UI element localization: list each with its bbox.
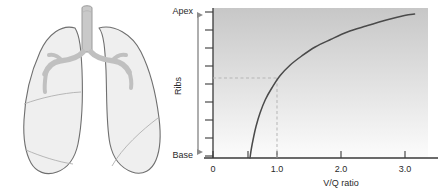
x-tick-label-2: 2.0 — [335, 164, 348, 174]
plot-area-background — [213, 8, 428, 158]
vq-chart-panel: Apex Base Ribs 0 1.0 2.0 3.0 V/Q ratio — [160, 0, 441, 190]
bronchus-right-branch-lower — [129, 71, 131, 88]
lung-illustration-panel — [0, 0, 180, 190]
x-tick-label-3: 3.0 — [399, 164, 412, 174]
ribs-label: Ribs — [173, 77, 183, 96]
x-axis-title: V/Q ratio — [323, 178, 359, 188]
lungs-diagram — [0, 0, 180, 190]
lung-right-lobe-shape — [99, 27, 160, 173]
base-label: Base — [172, 150, 193, 160]
x-tick-label-0: 0 — [210, 164, 215, 174]
vq-ratio-chart: Apex Base Ribs 0 1.0 2.0 3.0 V/Q ratio — [160, 0, 441, 190]
trachea-shape — [82, 6, 92, 52]
x-tick-label-1: 1.0 — [271, 164, 284, 174]
apex-label: Apex — [172, 6, 193, 16]
figure-root: Apex Base Ribs 0 1.0 2.0 3.0 V/Q ratio — [0, 0, 441, 190]
bronchus-left-branch-lower — [45, 73, 46, 92]
lung-left-lobe-shape — [24, 27, 83, 173]
y-axis-ticks — [205, 12, 213, 156]
